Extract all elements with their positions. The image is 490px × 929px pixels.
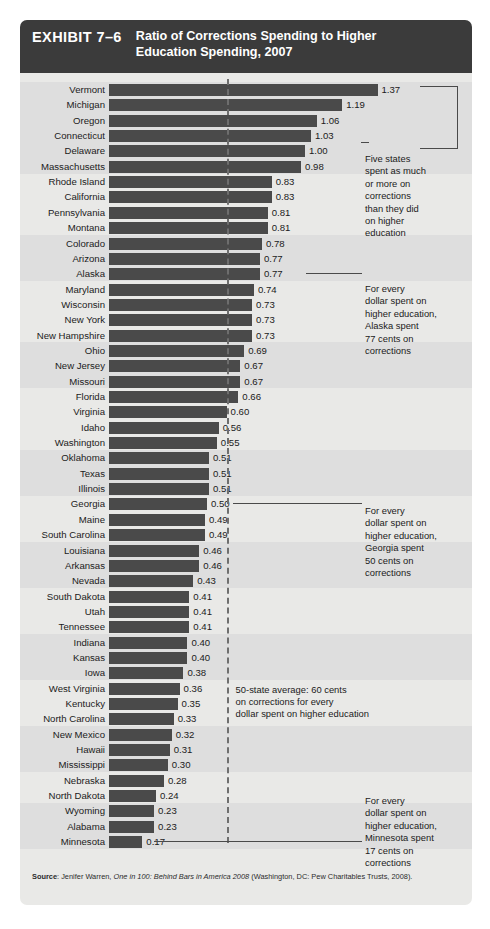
bar bbox=[109, 529, 205, 541]
state-label: Vermont bbox=[20, 83, 105, 97]
state-label: Idaho bbox=[20, 421, 105, 435]
bar-value-label: 1.00 bbox=[309, 144, 328, 158]
bar-value-label: 0.78 bbox=[266, 237, 285, 251]
callout-leader-line bbox=[233, 503, 362, 504]
state-label: Virginia bbox=[20, 405, 105, 419]
bar bbox=[109, 330, 252, 342]
bar-row: Texas0.51 bbox=[20, 467, 472, 483]
bar-value-label: 0.30 bbox=[172, 758, 191, 772]
bar-value-label: 0.55 bbox=[221, 436, 240, 450]
bar bbox=[109, 545, 199, 557]
state-label: Hawaii bbox=[20, 743, 105, 757]
average-annotation: 50-state average: 60 cents on correction… bbox=[236, 684, 369, 721]
state-label: Ohio bbox=[20, 344, 105, 358]
bar bbox=[109, 483, 209, 495]
source-note: Source: Jenifer Warren, One in 100: Behi… bbox=[20, 871, 472, 882]
state-label: Arkansas bbox=[20, 559, 105, 573]
bar bbox=[109, 498, 207, 510]
callout-leader-line bbox=[306, 273, 362, 274]
bar-row: Alaska0.77 bbox=[20, 267, 472, 283]
bar bbox=[109, 468, 209, 480]
state-label: Maryland bbox=[20, 283, 105, 297]
bar bbox=[109, 253, 260, 265]
fifty-state-average-line bbox=[227, 79, 230, 843]
bar-row: Kansas0.40 bbox=[20, 651, 472, 667]
bar-value-label: 1.19 bbox=[346, 98, 365, 112]
bar-row: New Jersey0.67 bbox=[20, 359, 472, 375]
bar-row: Virginia0.60 bbox=[20, 405, 472, 421]
state-label: South Dakota bbox=[20, 590, 105, 604]
state-label: New Hampshire bbox=[20, 329, 105, 343]
callout-georgia: For every dollar spent on higher educati… bbox=[365, 505, 461, 579]
state-label: Florida bbox=[20, 390, 105, 404]
state-label: New York bbox=[20, 313, 105, 327]
callout-alaska: For every dollar spent on higher educati… bbox=[365, 283, 461, 357]
bar-row: Connecticut1.03 bbox=[20, 129, 472, 145]
chart-plot-area: Vermont1.37Michigan1.19Oregon1.06Connect… bbox=[20, 77, 472, 867]
exhibit-page: EXHIBIT 7–6 Ratio of Corrections Spendin… bbox=[0, 0, 490, 929]
bar-row: Tennessee0.41 bbox=[20, 620, 472, 636]
bar bbox=[109, 652, 187, 664]
bar bbox=[109, 667, 183, 679]
bar-value-label: 1.37 bbox=[382, 83, 401, 97]
bar bbox=[109, 207, 268, 219]
exhibit-number-label: EXHIBIT 7–6 bbox=[32, 28, 122, 45]
bar-value-label: 0.24 bbox=[160, 789, 179, 803]
state-label: Arizona bbox=[20, 252, 105, 266]
bar-value-label: 0.41 bbox=[193, 605, 212, 619]
state-label: California bbox=[20, 190, 105, 204]
bar bbox=[109, 84, 378, 96]
bar-value-label: 0.69 bbox=[248, 344, 267, 358]
bar-row: Idaho0.56 bbox=[20, 421, 472, 437]
bar bbox=[109, 821, 154, 833]
bar-value-label: 0.33 bbox=[178, 712, 197, 726]
bar bbox=[109, 360, 240, 372]
state-label: West Virginia bbox=[20, 682, 105, 696]
bar-value-label: 0.46 bbox=[203, 559, 222, 573]
state-label: Wisconsin bbox=[20, 298, 105, 312]
bar-value-label: 0.32 bbox=[176, 728, 195, 742]
bar-value-label: 0.38 bbox=[187, 666, 206, 680]
bar-row: Arizona0.77 bbox=[20, 252, 472, 268]
bar bbox=[109, 452, 209, 464]
state-label: Colorado bbox=[20, 237, 105, 251]
bar-row: Iowa0.38 bbox=[20, 666, 472, 682]
bar bbox=[109, 130, 311, 142]
bar-value-label: 0.77 bbox=[264, 252, 283, 266]
state-label: Kentucky bbox=[20, 697, 105, 711]
bar bbox=[109, 176, 272, 188]
bar-value-label: 0.83 bbox=[276, 175, 295, 189]
bar bbox=[109, 744, 170, 756]
bar-value-label: 0.73 bbox=[256, 329, 275, 343]
bar-value-label: 0.23 bbox=[158, 820, 177, 834]
bar-row: Oklahoma0.51 bbox=[20, 451, 472, 467]
bar-value-label: 0.43 bbox=[197, 574, 216, 588]
bar-value-label: 0.46 bbox=[203, 544, 222, 558]
bar bbox=[109, 790, 156, 802]
bar bbox=[109, 836, 142, 848]
state-label: Montana bbox=[20, 221, 105, 235]
state-label: Massachusetts bbox=[20, 160, 105, 174]
state-label: Oregon bbox=[20, 114, 105, 128]
state-label: Nebraska bbox=[20, 774, 105, 788]
bar-value-label: 0.77 bbox=[264, 267, 283, 281]
bar bbox=[109, 115, 317, 127]
state-label: Michigan bbox=[20, 98, 105, 112]
bar-value-label: 1.03 bbox=[315, 129, 334, 143]
bar-value-label: 0.35 bbox=[182, 697, 201, 711]
state-label: Maine bbox=[20, 513, 105, 527]
bar-row: Illinois0.51 bbox=[20, 482, 472, 498]
bar-row: South Dakota0.41 bbox=[20, 590, 472, 606]
bar-row: Hawaii0.31 bbox=[20, 743, 472, 759]
source-author: Jenifer Warren, bbox=[61, 872, 113, 881]
bar bbox=[109, 437, 217, 449]
state-label: Connecticut bbox=[20, 129, 105, 143]
bar-row: Mississippi0.30 bbox=[20, 758, 472, 774]
callout-minnesota: For every dollar spent on higher educati… bbox=[365, 795, 461, 869]
bar bbox=[109, 575, 193, 587]
state-label: Mississippi bbox=[20, 758, 105, 772]
state-label: Louisiana bbox=[20, 544, 105, 558]
state-label: New Mexico bbox=[20, 728, 105, 742]
callout-five-states: Five states spent as much or more on cor… bbox=[365, 153, 461, 240]
bar-row: Utah0.41 bbox=[20, 605, 472, 621]
